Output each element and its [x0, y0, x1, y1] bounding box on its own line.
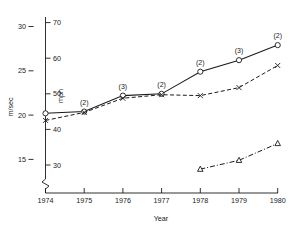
- point-annotation: (3): [235, 47, 244, 55]
- y-primary-tick-label: 20: [18, 111, 26, 120]
- x-tick-label: 1978: [192, 196, 208, 205]
- circle-marker: [275, 43, 280, 48]
- circle-marker: [198, 69, 203, 74]
- y-secondary-tick-label: 30: [53, 161, 61, 170]
- circle-marker: [236, 58, 241, 63]
- y-axis-secondary-title: mph: [56, 89, 65, 103]
- x-axis-title: Year: [154, 214, 169, 223]
- chart-canvas: 30 25 20 15 m/sec 70 60 50 40 30 mph: [0, 0, 292, 232]
- y-primary-tick-label: 15: [18, 155, 26, 164]
- point-annotation: (2): [273, 32, 282, 40]
- y-primary-tick-label: 30: [18, 22, 26, 31]
- y-secondary-tick-label: 40: [53, 125, 61, 134]
- point-annotation: (3): [119, 83, 128, 91]
- y-primary-tick-label: 25: [18, 66, 26, 75]
- point-annotation: (2): [157, 81, 166, 89]
- circle-marker: [43, 111, 48, 116]
- y-secondary-tick-label: 70: [53, 18, 61, 27]
- x-tick-label: 1977: [154, 196, 170, 205]
- point-annotation: (2): [80, 99, 89, 107]
- x-tick-label: 1980: [270, 196, 286, 205]
- y-secondary-tick-label: 60: [53, 54, 61, 63]
- circle-marker: [120, 93, 125, 98]
- x-tick-label: 1974: [38, 196, 54, 205]
- point-annotation: (2): [196, 59, 205, 67]
- y-axis-primary-title: m/sec: [6, 97, 15, 117]
- x-tick-label: 1979: [231, 196, 247, 205]
- chart-figure: 30 25 20 15 m/sec 70 60 50 40 30 mph: [0, 0, 292, 232]
- x-tick-label: 1976: [115, 196, 131, 205]
- circle-marker: [159, 91, 164, 96]
- x-tick-label: 1975: [76, 196, 92, 205]
